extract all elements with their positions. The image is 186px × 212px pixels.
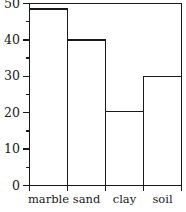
y-tick-label: 20: [4, 105, 20, 120]
y-tick-label: 50: [4, 0, 20, 11]
chart-background: [0, 0, 186, 212]
x-tick-label-clay: clay: [113, 192, 137, 206]
y-tick-label: 0: [12, 178, 20, 193]
y-tick-label: 10: [4, 141, 20, 156]
bar-chart: 01020304050 marblesandclaysoil: [0, 0, 186, 212]
x-tick-label-sand: sand: [73, 192, 101, 206]
y-tick-label: 30: [4, 68, 20, 83]
x-tick-label-soil: soil: [152, 192, 173, 206]
x-tick-label-marble: marble: [28, 192, 69, 206]
chart-canvas: 01020304050 marblesandclaysoil: [0, 0, 186, 212]
y-tick-label: 40: [4, 32, 20, 47]
